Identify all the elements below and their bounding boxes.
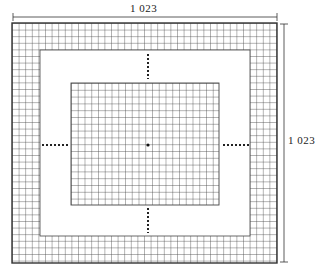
inner-grid [71, 83, 219, 205]
grid-diagram [0, 0, 318, 272]
right-dimension-label: 1 023 [288, 134, 315, 146]
center-marker [146, 143, 149, 146]
top-dimension-label: 1 023 [130, 2, 157, 14]
top-dimension-line [13, 13, 277, 21]
right-dimension-line [280, 24, 288, 262]
